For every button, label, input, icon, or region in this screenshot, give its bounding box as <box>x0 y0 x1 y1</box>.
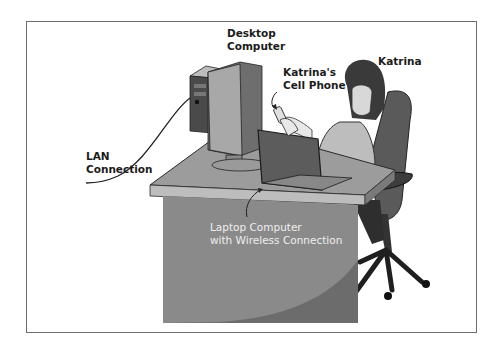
laptop-label-line1: Laptop Computer <box>210 221 342 234</box>
laptop-label-line2: with Wireless Connection <box>210 234 342 247</box>
cell-phone-label-line1: Katrina's <box>283 66 346 79</box>
laptop-label: Laptop Computer with Wireless Connection <box>210 221 342 247</box>
cell-phone-label: Katrina's Cell Phone <box>283 66 346 92</box>
desktop-computer-label: Desktop Computer <box>227 27 285 53</box>
cell-phone-label-line2: Cell Phone <box>283 79 346 92</box>
desktop-computer-label-line1: Desktop <box>227 27 285 40</box>
desktop-computer-label-line2: Computer <box>227 40 285 53</box>
katrina-label: Katrina <box>378 55 422 68</box>
lan-connection-label: LAN Connection <box>86 150 153 176</box>
lan-connection-label-line1: LAN <box>86 150 153 163</box>
lan-connection-label-line2: Connection <box>86 163 153 176</box>
